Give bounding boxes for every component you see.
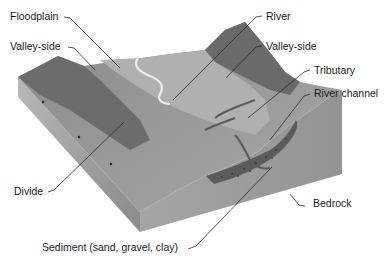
- label-valley-side-right: Valley-side: [266, 40, 317, 52]
- label-valley-side-left: Valley-side: [10, 40, 61, 52]
- terrain-block: [18, 22, 342, 232]
- leader-bedrock: [290, 194, 305, 206]
- label-river: River: [266, 10, 291, 22]
- river-valley-diagram: Floodplain Valley-side River Valley-side…: [0, 0, 387, 262]
- label-sediment: Sediment (sand, gravel, clay): [42, 241, 178, 253]
- label-river-channel: River channel: [314, 87, 378, 99]
- label-divide: Divide: [14, 185, 43, 197]
- label-bedrock: Bedrock: [313, 197, 352, 209]
- label-floodplain: Floodplain: [10, 10, 59, 22]
- label-tributary: Tributary: [314, 64, 356, 76]
